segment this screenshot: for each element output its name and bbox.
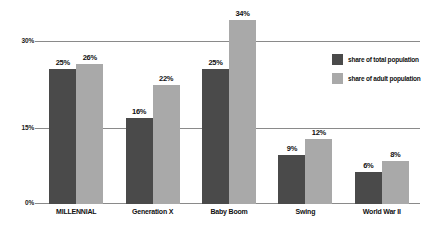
bar-value-label: 8% xyxy=(390,150,400,159)
bar-value-label: 16% xyxy=(132,107,146,116)
bar-slot: 26% xyxy=(76,39,103,204)
bar-value-label: 9% xyxy=(287,144,297,153)
legend-swatch-icon-adult xyxy=(332,73,343,84)
legend-item-adult-population: share of adult population xyxy=(332,73,421,84)
x-axis-labels: MILLENNIALGeneration XBaby BoomSwingWorl… xyxy=(38,208,420,215)
legend-label-total: share of total population xyxy=(348,56,419,63)
legend-item-total-population: share of total population xyxy=(332,54,421,65)
bar-value-label: 22% xyxy=(159,74,173,83)
bar[interactable]: 16% xyxy=(126,118,153,204)
x-axis-category-label: Baby Boom xyxy=(191,208,267,215)
bar-group: 25%26% xyxy=(38,39,114,204)
bar[interactable]: 25% xyxy=(49,69,76,204)
bar-slot: 22% xyxy=(153,39,180,204)
chart-legend: share of total population share of adult… xyxy=(332,54,421,84)
bar[interactable]: 26% xyxy=(76,64,103,204)
bar-slot: 25% xyxy=(202,39,229,204)
legend-swatch-icon-total xyxy=(332,54,343,65)
bar-slot: 16% xyxy=(126,39,153,204)
legend-label-adult: share of adult population xyxy=(348,75,421,82)
y-axis-tick-15: 15% xyxy=(20,124,34,131)
bar-slot: 25% xyxy=(49,39,76,204)
bar[interactable]: 9% xyxy=(278,155,305,204)
y-axis-tick-0: 0% xyxy=(20,199,34,206)
bar[interactable]: 12% xyxy=(305,139,332,204)
bar-value-label: 25% xyxy=(208,58,222,67)
bar-value-label: 6% xyxy=(363,161,373,170)
x-axis-category-label: Generation X xyxy=(114,208,190,215)
y-axis-tick-30: 30% xyxy=(20,37,34,44)
bar-value-label: 12% xyxy=(312,128,326,137)
bar-slot: 34% xyxy=(229,39,256,204)
x-axis-category-label: MILLENNIAL xyxy=(38,208,114,215)
x-axis-category-label: Swing xyxy=(267,208,343,215)
bar-value-label: 26% xyxy=(83,53,97,62)
bar[interactable]: 25% xyxy=(202,69,229,204)
bar[interactable]: 22% xyxy=(153,85,180,204)
bar-slot: 12% xyxy=(305,39,332,204)
bar-value-label: 25% xyxy=(56,58,70,67)
bar-group: 16%22% xyxy=(114,39,190,204)
bar-value-label: 34% xyxy=(235,9,249,18)
bar-group: 25%34% xyxy=(191,39,267,204)
x-axis-category-label: World War II xyxy=(344,208,420,215)
bar[interactable]: 34% xyxy=(229,20,256,204)
bar-chart: 30% 15% 0% 25%26%16%22%25%34%9%12%6%8% M… xyxy=(0,0,433,246)
bar-slot: 9% xyxy=(278,39,305,204)
bar[interactable]: 6% xyxy=(355,172,382,204)
bar[interactable]: 8% xyxy=(382,161,409,204)
